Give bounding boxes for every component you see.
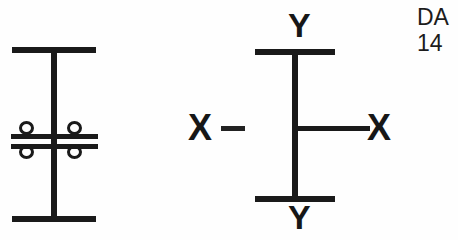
axis-label-y-top: Y (288, 8, 311, 42)
caption-line-1: DA (417, 4, 458, 30)
diagram-canvas: Y X X Y DA 14 (0, 0, 458, 240)
axes-beam-x-axis-dash (221, 126, 245, 131)
figure-bolted-beam (0, 0, 120, 240)
bolted-beam-bottom-flange (12, 216, 96, 222)
axis-label-y-bottom: Y (288, 200, 311, 234)
bolt-top-right-icon (67, 121, 82, 135)
caption-line-2: 14 (417, 30, 458, 56)
figure-axes-beam: Y X X Y (185, 0, 405, 240)
axes-beam-x-axis-line (295, 126, 370, 131)
bolt-bottom-right-icon (67, 145, 82, 159)
caption-block: DA 14 (417, 4, 458, 56)
axis-label-x-left: X (188, 110, 212, 146)
axis-label-x-right: X (367, 110, 391, 146)
bolt-top-left-icon (19, 121, 34, 135)
bolt-bottom-left-icon (19, 145, 34, 159)
